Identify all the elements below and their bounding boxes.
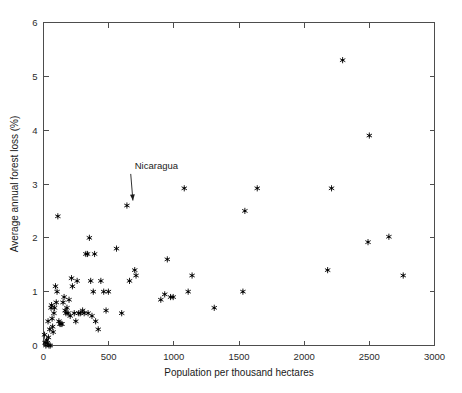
- marker-center: [91, 315, 93, 317]
- marker-center: [368, 134, 370, 136]
- data-point: [255, 185, 260, 191]
- x-tick-label: 1000: [163, 351, 184, 362]
- marker-center: [50, 304, 52, 306]
- marker-center: [191, 274, 193, 276]
- x-tick-label: 2000: [294, 351, 315, 362]
- data-point: [101, 289, 106, 295]
- marker-center: [93, 253, 95, 255]
- data-point: [60, 299, 65, 305]
- data-point: [386, 234, 391, 240]
- data-point: [132, 267, 137, 273]
- data-point: [182, 185, 187, 191]
- marker-center: [388, 236, 390, 238]
- data-point: [74, 278, 79, 284]
- marker-center: [43, 334, 45, 336]
- data-point: [89, 313, 94, 319]
- data-point: [119, 310, 124, 316]
- marker-center: [56, 291, 58, 293]
- x-tick-label: 0: [41, 351, 46, 362]
- plot-frame: [44, 23, 435, 346]
- data-point: [106, 289, 111, 295]
- marker-center: [86, 253, 88, 255]
- marker-center: [66, 307, 68, 309]
- x-tick-label: 3000: [424, 351, 445, 362]
- data-point: [92, 251, 97, 257]
- chart-canvas: 0500100015002000250030000123456Populatio…: [0, 0, 462, 393]
- data-point: [42, 332, 47, 338]
- marker-center: [46, 342, 48, 344]
- marker-center: [62, 301, 64, 303]
- data-point: [367, 132, 372, 138]
- marker-center: [69, 315, 71, 317]
- marker-center: [71, 285, 73, 287]
- data-point: [365, 239, 370, 245]
- y-tick-label: 5: [32, 71, 37, 82]
- marker-center: [327, 269, 329, 271]
- marker-center: [76, 280, 78, 282]
- y-axis-title: Average annual forest loss (%): [9, 116, 20, 253]
- data-point: [55, 213, 60, 219]
- data-point: [91, 289, 96, 295]
- data-point: [133, 272, 138, 278]
- marker-center: [367, 241, 369, 243]
- marker-center: [63, 296, 65, 298]
- marker-center: [70, 277, 72, 279]
- marker-center: [53, 312, 55, 314]
- y-tick-label: 4: [32, 125, 37, 136]
- y-tick-label: 0: [32, 340, 37, 351]
- y-tick-label: 6: [32, 17, 37, 28]
- marker-center: [52, 331, 54, 333]
- data-point: [88, 278, 93, 284]
- scatter-plot-figure: 0500100015002000250030000123456Populatio…: [0, 0, 462, 393]
- y-tick-label: 3: [32, 179, 37, 190]
- marker-center: [54, 285, 56, 287]
- marker-center: [83, 312, 85, 314]
- data-point: [87, 235, 92, 241]
- marker-center: [49, 344, 51, 346]
- data-point: [240, 289, 245, 295]
- data-point: [329, 185, 334, 191]
- annotation-label-nicaragua: Nicaragua: [135, 160, 179, 171]
- marker-center: [61, 323, 63, 325]
- marker-center: [57, 215, 59, 217]
- data-point: [212, 305, 217, 311]
- marker-center: [342, 59, 344, 61]
- data-point: [96, 326, 101, 332]
- data-point: [54, 299, 59, 305]
- data-point: [85, 310, 90, 316]
- marker-center: [134, 269, 136, 271]
- data-point: [103, 307, 108, 313]
- data-point: [53, 283, 58, 289]
- marker-center: [103, 291, 105, 293]
- marker-center: [47, 336, 49, 338]
- marker-center: [49, 328, 51, 330]
- marker-center: [166, 258, 168, 260]
- marker-center: [79, 312, 81, 314]
- marker-center: [88, 237, 90, 239]
- marker-center: [402, 274, 404, 276]
- data-point: [124, 202, 129, 208]
- data-point: [189, 272, 194, 278]
- marker-center: [75, 320, 77, 322]
- marker-center: [67, 312, 69, 314]
- marker-center: [256, 187, 258, 189]
- data-point: [45, 318, 50, 324]
- data-point: [70, 283, 75, 289]
- data-point: [73, 318, 78, 324]
- marker-center: [73, 312, 75, 314]
- marker-center: [47, 320, 49, 322]
- data-point: [185, 289, 190, 295]
- marker-center: [183, 187, 185, 189]
- data-point: [158, 297, 163, 303]
- marker-center: [160, 299, 162, 301]
- marker-center: [187, 291, 189, 293]
- data-point: [93, 318, 98, 324]
- marker-center: [97, 328, 99, 330]
- marker-center: [164, 293, 166, 295]
- marker-center: [45, 344, 47, 346]
- marker-center: [68, 299, 70, 301]
- marker-center: [126, 204, 128, 206]
- data-point: [401, 272, 406, 278]
- y-tick-label: 1: [32, 286, 37, 297]
- x-tick-label: 500: [101, 351, 117, 362]
